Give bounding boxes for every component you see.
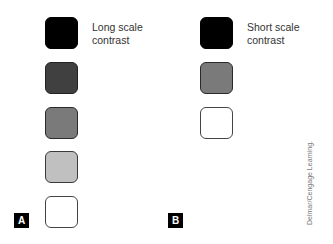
swatch-a-5-white	[45, 196, 78, 228]
caption-short-scale: Short scale contrast	[247, 21, 300, 47]
panel-label-a: A	[14, 213, 29, 228]
swatch-a-4-light-gray	[45, 151, 78, 183]
credit-text: Delmar/Cengage Learning.	[306, 141, 313, 225]
swatch-b-3-white	[200, 107, 233, 139]
swatch-b-2-mid-gray	[200, 62, 233, 94]
swatch-a-3-mid-gray	[45, 107, 78, 139]
caption-line-2: contrast	[92, 34, 143, 47]
caption-line-2: contrast	[247, 34, 300, 47]
caption-line-1: Long scale	[92, 21, 143, 34]
swatch-a-1-black	[45, 17, 78, 49]
caption-line-1: Short scale	[247, 21, 300, 34]
swatch-a-2-dark-gray	[45, 62, 78, 94]
caption-long-scale: Long scale contrast	[92, 21, 143, 47]
swatch-b-1-black	[200, 17, 233, 49]
panel-label-b: B	[168, 213, 183, 228]
